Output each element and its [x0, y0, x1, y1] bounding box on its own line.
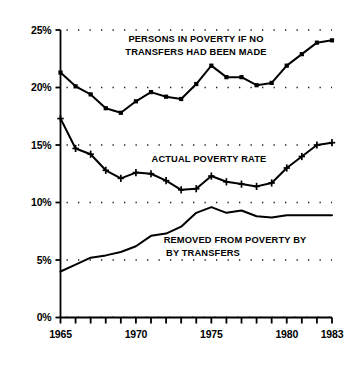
data-point-marker [89, 92, 93, 96]
data-point-marker [300, 52, 304, 56]
data-point-marker [73, 84, 77, 88]
data-point-marker [285, 64, 289, 68]
x-axis-label-1983: 1983 [321, 328, 344, 340]
data-point-marker [254, 83, 258, 87]
data-point-marker [104, 106, 108, 110]
y-axis-label-25%: 25% [31, 24, 52, 36]
y-axis-label-10%: 10% [31, 196, 52, 208]
x-axis-label-1965: 1965 [49, 328, 72, 340]
data-point-marker [164, 95, 168, 99]
x-axis-label-1975: 1975 [200, 328, 223, 340]
data-point-marker [134, 99, 138, 103]
annotation-removed-line-1: REMOVED FROM POVERTY BY [164, 235, 307, 245]
data-point-marker [58, 70, 62, 74]
data-point-marker [239, 75, 243, 79]
annotation-no-transfers-line-2: TRANSFERS HAD BEEN MADE [125, 47, 266, 57]
y-axis-label-15%: 15% [31, 139, 52, 151]
y-axis-label-5%: 5% [37, 254, 53, 266]
y-axis-label-20%: 20% [31, 81, 52, 93]
x-axis-label-1980: 1980 [275, 328, 298, 340]
data-point-marker [270, 81, 274, 85]
y-axis-label-0%: 0% [37, 311, 53, 323]
annotation-no-transfers-line-1: PERSONS IN POVERTY IF NO [128, 34, 263, 44]
annotation-removed-line-2: BY TRANSFERS [166, 248, 240, 258]
data-point-marker [330, 38, 334, 42]
data-point-marker [149, 90, 153, 94]
poverty-rate-chart: 0%5%10%15%20%25% 19651970197519801983 PE… [0, 0, 363, 368]
data-point-marker [179, 97, 183, 101]
data-point-marker [194, 82, 198, 86]
data-point-marker [315, 41, 319, 45]
data-point-marker [224, 75, 228, 79]
data-point-marker [119, 111, 123, 115]
x-axis-label-1970: 1970 [125, 328, 148, 340]
data-point-marker [209, 64, 213, 68]
chart-canvas: 0%5%10%15%20%25% 19651970197519801983 PE… [0, 0, 363, 368]
annotation-actual-rate-line-1: ACTUAL POVERTY RATE [152, 154, 267, 164]
